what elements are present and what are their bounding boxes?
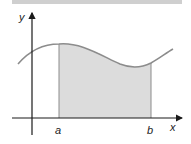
y-axis-label: y: [18, 11, 26, 23]
x-axis-label: x: [169, 121, 176, 133]
upper-bound-label: b: [147, 124, 153, 136]
shaded-area: [59, 44, 151, 118]
area-under-curve-diagram: y x a b: [0, 0, 191, 144]
lower-bound-label: a: [55, 124, 61, 136]
